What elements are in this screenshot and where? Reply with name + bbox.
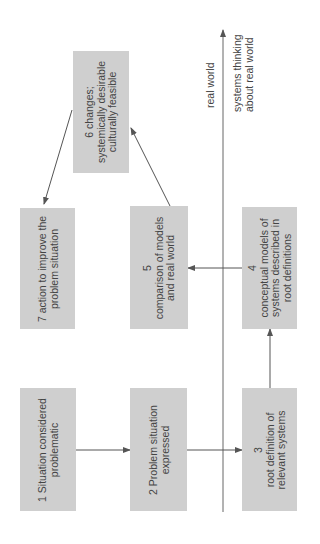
label-real-world: real world (205, 62, 217, 108)
box-1-situation: 1 Situation considered problematic (20, 388, 76, 511)
box-5-comparison: 5 comparison of models and real world (130, 206, 188, 329)
arrow-5-to-6 (131, 128, 170, 206)
box-6-changes: 6 changes; systemically desirable cultur… (73, 51, 129, 173)
box-5-text: 5 comparison of models and real world (142, 216, 177, 319)
box-7-text: 7 action to improve the problem situatio… (36, 215, 59, 321)
box-2-problem-expressed: 2 Problem situation expressed (130, 388, 187, 511)
box-7-action: 7 action to improve the problem situatio… (20, 208, 75, 329)
box-1-text: 1 Situation considered problematic (37, 398, 60, 502)
box-3-root-definition: 3 root definition of relevant systems (242, 388, 297, 511)
box-3-text: 3 root definition of relevant systems (252, 410, 287, 489)
box-4-text: 4 conceptual models of systems described… (247, 218, 293, 317)
label-systems-thinking: systems thinking about real world (232, 34, 255, 112)
box-4-conceptual-models: 4 conceptual models of systems described… (242, 207, 297, 329)
box-2-text: 2 Problem situation expressed (147, 405, 170, 495)
box-6-text: 6 changes; systemically desirable cultur… (84, 61, 119, 163)
arrow-6-to-7 (44, 110, 72, 204)
